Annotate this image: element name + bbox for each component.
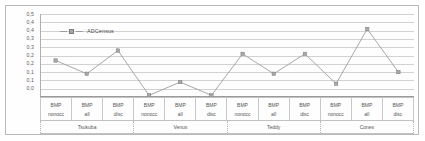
category-cell: BMPdisc [383, 98, 414, 120]
group-label-cell: Venus [134, 121, 227, 133]
series-plot [40, 14, 414, 97]
y-tick-label: 0,0 [8, 86, 34, 91]
category-region-label: all [178, 111, 183, 117]
category-metric-label: BMP [361, 102, 372, 108]
data-point-marker [272, 72, 275, 75]
data-point-marker [241, 52, 244, 55]
category-region-label: nonocc [328, 111, 344, 117]
category-region-label: disc [114, 111, 123, 117]
category-metric-label: BMP [299, 102, 310, 108]
category-cell: BMPnonocc [321, 98, 352, 120]
category-metric-label: BMP [206, 102, 217, 108]
series-line [56, 29, 399, 95]
category-cell: BMPdisc [290, 98, 321, 120]
category-region-label: nonocc [48, 111, 64, 117]
category-region-label: disc [393, 111, 402, 117]
category-cells-row: BMPnonoccBMPallBMPdiscBMPnonoccBMPallBMP… [40, 97, 414, 120]
data-point-marker [54, 59, 57, 62]
category-cell: BMPall [259, 98, 290, 120]
group-label-cell: Cones [321, 121, 414, 133]
data-point-marker [366, 27, 369, 30]
category-axis-table: BMPnonoccBMPallBMPdiscBMPnonoccBMPallBMP… [40, 97, 414, 134]
category-metric-label: BMP [82, 102, 93, 108]
data-point-marker [303, 52, 306, 55]
category-region-label: nonocc [141, 111, 157, 117]
plot-area [40, 14, 414, 97]
category-metric-label: BMP [113, 102, 124, 108]
legend-line-icon-right [76, 31, 83, 32]
category-cell: BMPall [165, 98, 196, 120]
y-tick-label: 0,1 [8, 70, 34, 75]
group-cells-row: TsukubaVenusTeddyCones [40, 120, 414, 134]
category-region-label: all [271, 111, 276, 117]
data-point-marker [397, 70, 400, 73]
y-tick-label: 0,3 [8, 45, 34, 50]
y-tick-label: 0,2 [8, 53, 34, 58]
category-region-label: all [85, 111, 90, 117]
group-label-cell: Tsukuba [40, 121, 134, 133]
legend-line-icon [60, 31, 67, 32]
data-point-marker [85, 72, 88, 75]
category-cell: BMPnonocc [40, 98, 72, 120]
category-metric-label: BMP [51, 102, 62, 108]
y-tick-label: 0,1 [8, 78, 34, 83]
data-point-marker [179, 80, 182, 83]
y-tick-label: 0,4 [8, 28, 34, 33]
category-cell: BMPdisc [196, 98, 227, 120]
category-metric-label: BMP [144, 102, 155, 108]
data-point-marker [116, 49, 119, 52]
legend: ADCensus [60, 28, 114, 34]
category-cell: BMPnonocc [227, 98, 258, 120]
category-region-label: disc [300, 111, 309, 117]
category-metric-label: BMP [237, 102, 248, 108]
category-region-label: nonocc [234, 111, 250, 117]
category-cell: BMPnonocc [134, 98, 165, 120]
category-cell: BMPdisc [103, 98, 134, 120]
group-label-cell: Teddy [228, 121, 321, 133]
y-tick-label: 0,2 [8, 61, 34, 66]
category-region-label: all [364, 111, 369, 117]
category-metric-label: BMP [268, 102, 279, 108]
data-point-marker [334, 82, 337, 85]
category-metric-label: BMP [175, 102, 186, 108]
chart-frame: 0,50,40,40,30,30,20,20,10,10,0 ADCensus … [5, 5, 419, 135]
y-tick-label: 0,4 [8, 20, 34, 25]
category-metric-label: BMP [392, 102, 403, 108]
legend-marker-icon [69, 29, 74, 34]
category-cell: BMPall [352, 98, 383, 120]
category-region-label: disc [207, 111, 216, 117]
category-metric-label: BMP [330, 102, 341, 108]
y-tick-label: 0,3 [8, 36, 34, 41]
category-cell: BMPall [72, 98, 103, 120]
legend-label: ADCensus [87, 28, 114, 34]
y-tick-label: 0,5 [8, 12, 34, 17]
